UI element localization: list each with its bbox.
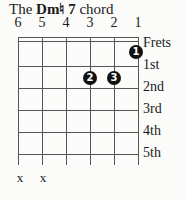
finger-dot-3: 3 xyxy=(107,71,121,85)
nut-line xyxy=(18,41,139,42)
string-number-3: 3 xyxy=(84,15,96,31)
fret-label-5th: 5th xyxy=(143,145,161,161)
string-line xyxy=(18,37,19,165)
finger-dot-1: 1 xyxy=(129,45,143,59)
string-line xyxy=(66,37,67,165)
string-number-1: 1 xyxy=(132,15,144,31)
fret-line xyxy=(18,88,139,89)
fret-line xyxy=(18,66,139,67)
muted-string-5: x xyxy=(38,170,48,186)
string-number-6: 6 xyxy=(12,15,24,31)
fret-line xyxy=(18,154,139,155)
string-line xyxy=(42,37,43,165)
muted-string-6: x xyxy=(15,170,25,186)
fret-label-header: Frets xyxy=(143,35,171,51)
string-number-2: 2 xyxy=(108,15,120,31)
fret-label-2nd: 2nd xyxy=(143,79,164,95)
string-number-5: 5 xyxy=(36,15,48,31)
fret-label-1st: 1st xyxy=(143,57,159,73)
string-number-4: 4 xyxy=(60,15,72,31)
finger-dot-2: 2 xyxy=(83,71,97,85)
fret-label-3rd: 3rd xyxy=(143,101,162,117)
string-line xyxy=(90,37,91,165)
fret-line xyxy=(18,132,139,133)
fret-label-4th: 4th xyxy=(143,123,161,139)
nut-line xyxy=(18,37,139,38)
string-line xyxy=(114,37,115,165)
fret-line xyxy=(18,110,139,111)
